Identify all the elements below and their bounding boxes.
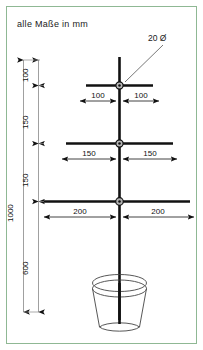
- middle-hub-node: [116, 140, 123, 147]
- vdim-label-600: 600: [21, 262, 30, 275]
- hdim-label-middle-left: 150: [75, 149, 103, 158]
- hdim-label-middle-right: 150: [136, 149, 164, 158]
- diameter-callout-label: 20 Ø: [148, 33, 166, 43]
- technical-drawing-page: alle Maße in mm 20 Ø 100 150 150 600 100…: [0, 0, 203, 350]
- units-note: alle Maße in mm: [17, 19, 88, 29]
- hdim-label-upper-right: 100: [127, 91, 155, 100]
- hdim-label-upper-left: 100: [84, 91, 112, 100]
- hdim-label-lower-right: 200: [144, 207, 172, 216]
- diameter-leader-line: [125, 45, 163, 82]
- hdim-label-lower-left: 200: [66, 207, 94, 216]
- vdim-label-100: 100: [21, 69, 30, 82]
- vdim-label-150-a: 150: [21, 116, 30, 129]
- vdim-label-150-b: 150: [21, 174, 30, 187]
- drawing-canvas: [0, 0, 203, 350]
- vdim-label-1000: 1000: [6, 204, 15, 222]
- upper-hub-node: [116, 82, 123, 89]
- lower-hub-node: [116, 198, 124, 206]
